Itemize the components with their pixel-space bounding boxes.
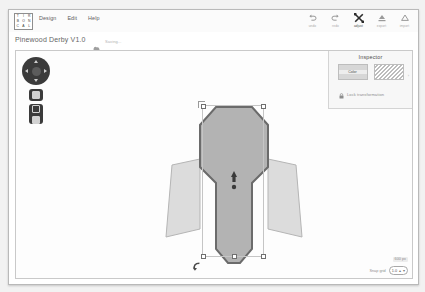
pan-left-icon[interactable]	[25, 69, 28, 73]
inspector-title: Inspector	[329, 54, 412, 60]
snap-grid-stepper[interactable]: 1.0 ▴ ▾	[389, 266, 408, 275]
application-window: T I R B O N C A L Design Edit Help	[8, 9, 419, 285]
redo-arrow-icon	[331, 13, 340, 23]
pan-navigation-pad[interactable]	[22, 57, 50, 85]
toolbar-undo-button[interactable]: undo	[303, 11, 322, 28]
transform-icon	[354, 13, 364, 23]
toolbar-label: import	[400, 24, 409, 28]
color-swatch-label: Color	[339, 70, 367, 74]
right-fin[interactable]	[268, 159, 302, 237]
canvas-dimension-label: 600 px	[393, 257, 408, 262]
import-icon	[400, 13, 410, 23]
toolbar: undo redo adjust	[303, 11, 414, 28]
menu-edit[interactable]: Edit	[67, 15, 77, 21]
color-swatch-button[interactable]: Color	[338, 64, 368, 80]
menu-design[interactable]: Design	[39, 15, 56, 21]
lock-icon	[339, 85, 344, 103]
resize-handle-top-left[interactable]	[201, 104, 206, 109]
toolbar-redo-button[interactable]: redo	[326, 11, 345, 28]
resize-handle-bottom-right[interactable]	[261, 254, 266, 259]
pan-down-icon[interactable]	[34, 79, 38, 82]
left-fin[interactable]	[166, 159, 200, 237]
design-canvas[interactable]: Inspector Color › Lock transformation	[15, 50, 413, 279]
export-icon	[377, 13, 387, 23]
pan-right-icon[interactable]	[44, 69, 47, 73]
app-logo-icon[interactable]: T I R B O N C A L	[14, 13, 33, 30]
zoom-tool-button[interactable]	[29, 89, 43, 101]
menu-help[interactable]: Help	[88, 15, 100, 21]
resize-handle-top-right[interactable]	[261, 104, 266, 109]
toolbar-label: export	[377, 24, 386, 28]
lock-transformation-label: Lock transformation	[347, 92, 384, 97]
pan-center-icon[interactable]	[32, 67, 41, 76]
swatch-row: Color	[329, 64, 412, 80]
resize-handle-bottom-center[interactable]	[232, 254, 237, 259]
selection-outline	[202, 105, 264, 257]
menu-bar: T I R B O N C A L Design Edit Help	[9, 10, 418, 33]
toolbar-import-button[interactable]: import	[395, 11, 414, 28]
stepper-up-icon[interactable]: ▴	[399, 269, 401, 273]
pan-up-icon[interactable]	[34, 60, 38, 63]
toolbar-export-button[interactable]: export	[372, 11, 391, 28]
toolbar-label: adjust	[354, 24, 363, 28]
menu-items: Design Edit Help	[39, 15, 100, 21]
stacked-squares-icon	[32, 116, 40, 124]
chevron-right-icon[interactable]: ›	[408, 73, 409, 78]
resize-handle-bottom-left[interactable]	[201, 254, 206, 259]
inspector-panel: Inspector Color › Lock transformation	[328, 51, 412, 109]
app-root: T I R B O N C A L Design Edit Help	[0, 0, 425, 292]
toolbar-adjust-button[interactable]: adjust	[349, 11, 368, 28]
undo-arrow-icon	[308, 13, 317, 23]
selection-bounding-box[interactable]	[202, 105, 264, 257]
save-status: Saving...	[105, 39, 121, 44]
lock-transformation-row[interactable]: Lock transformation	[339, 85, 412, 103]
pattern-swatch-button[interactable]	[374, 64, 404, 80]
rotate-handle-icon[interactable]	[192, 259, 202, 277]
layers-tool-button[interactable]	[29, 104, 43, 124]
logo-letter: L	[26, 24, 32, 29]
stacked-squares-icon	[32, 105, 40, 113]
document-title-bar: Pinewood Derby V1.0 Saving...	[9, 32, 418, 50]
toolbar-label: redo	[332, 24, 339, 28]
page-title[interactable]: Pinewood Derby V1.0	[15, 36, 86, 43]
square-icon	[32, 91, 40, 99]
snap-grid-label: Snap grid	[369, 269, 385, 273]
toolbar-label: undo	[309, 24, 317, 28]
grid-controls: 600 px Snap grid 1.0 ▴ ▾	[369, 246, 408, 275]
snap-grid-value[interactable]: 1.0	[392, 269, 397, 273]
stepper-down-icon[interactable]: ▾	[403, 269, 405, 273]
snap-grid-row: Snap grid 1.0 ▴ ▾	[369, 266, 408, 275]
